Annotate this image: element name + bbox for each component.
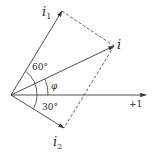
label-i2: i2 bbox=[53, 134, 62, 151]
dashed-line-i1-to-i bbox=[62, 11, 114, 46]
label-i1: i1 bbox=[42, 4, 51, 21]
phasor-diagram-svg: i1 i 60° φ 30° +1 i2 bbox=[0, 0, 155, 157]
vector-i bbox=[11, 46, 114, 95]
label-angle-30: 30° bbox=[42, 102, 58, 112]
arc-30-degrees bbox=[34, 95, 38, 109]
label-angle-phi: φ bbox=[51, 81, 58, 91]
label-real-axis: +1 bbox=[129, 99, 142, 109]
arc-phi bbox=[45, 79, 48, 95]
label-i: i bbox=[117, 37, 121, 52]
label-angle-60: 60° bbox=[32, 62, 48, 72]
phasor-diagram: i1 i 60° φ 30° +1 i2 bbox=[0, 0, 155, 157]
